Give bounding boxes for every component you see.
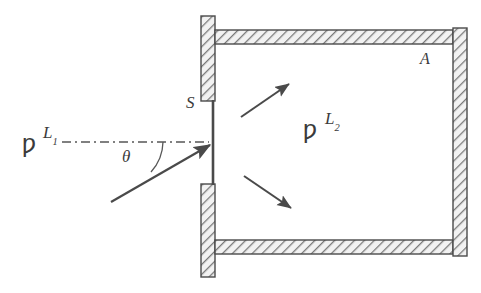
chamber-wall-left-upper bbox=[201, 16, 215, 101]
chamber-wall-bottom bbox=[215, 240, 453, 254]
label-L1-subscript: 1 bbox=[52, 136, 57, 147]
label-L1: L1 bbox=[43, 124, 58, 145]
label-L2-subscript: 2 bbox=[334, 122, 339, 133]
scattered-ray-up bbox=[241, 84, 289, 117]
chamber-marker-L2: ƿ bbox=[303, 117, 317, 142]
diagram-canvas bbox=[0, 0, 481, 293]
angle-arc-theta bbox=[151, 142, 163, 172]
label-L2: L2 bbox=[325, 110, 340, 131]
chamber-wall-left-lower bbox=[201, 184, 215, 277]
source-marker-L1: ƿ bbox=[22, 131, 36, 156]
chamber-wall-right bbox=[453, 28, 467, 256]
label-area-A: A bbox=[420, 51, 430, 67]
physics-diagram-figure: ƿ L1 ƿ L2 S A θ bbox=[0, 0, 481, 293]
scattered-ray-down bbox=[244, 176, 291, 208]
label-slit-S: S bbox=[186, 94, 195, 111]
chamber-wall-top bbox=[215, 30, 453, 44]
label-angle-theta: θ bbox=[122, 148, 130, 165]
